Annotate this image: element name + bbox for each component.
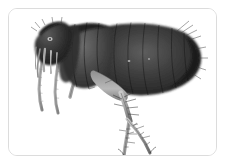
flea-photograph: Grayscale microscope photograph of a fle…	[9, 9, 216, 155]
abdomen-highlight-spot	[128, 60, 131, 62]
eye-pupil	[49, 38, 51, 40]
abdomen-highlight-spot-2	[148, 58, 150, 60]
photo-card: Grayscale microscope photograph of a fle…	[8, 8, 217, 156]
page-root: Grayscale microscope photograph of a fle…	[0, 0, 227, 165]
flea-specimen-image	[9, 9, 216, 155]
